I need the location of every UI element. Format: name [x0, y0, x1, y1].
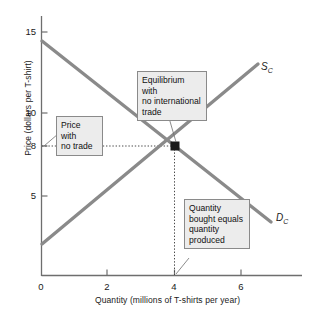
x-tick-label-2: 2: [99, 281, 115, 292]
x-tick-label-6: 6: [233, 281, 249, 292]
supply-curve-label-sub: C: [268, 67, 273, 74]
equilibrium-point-marker: [171, 142, 180, 151]
callout-price-with-no-trade: Price with no trade: [56, 116, 103, 156]
supply-curve-label-text: S: [261, 61, 268, 72]
demand-curve-label: DC: [276, 212, 288, 225]
economics-supply-demand-figure: 15 10 8 5 0 2 4 6 Price (dollars per T-s…: [0, 0, 310, 314]
y-axis-title: Price (dollars per T-shirt): [23, 33, 33, 183]
demand-curve-label-sub: C: [283, 218, 288, 225]
x-tick-label-0: 0: [33, 281, 49, 292]
x-tick-label-4: 4: [166, 281, 182, 292]
callout-equilibrium-no-international-trade: Equilibrium with no international trade: [137, 71, 207, 121]
supply-curve-label: SC: [261, 61, 273, 74]
x-axis-title: Quantity (millions of T-shirts per year): [95, 295, 240, 305]
callout-quantity-bought-equals-quantity-produced: Quantity bought equals quantity produced: [184, 199, 250, 249]
chart-canvas: [0, 0, 310, 314]
quantity-leader-line: [176, 258, 189, 274]
y-tick-label-5: 5: [20, 190, 36, 201]
